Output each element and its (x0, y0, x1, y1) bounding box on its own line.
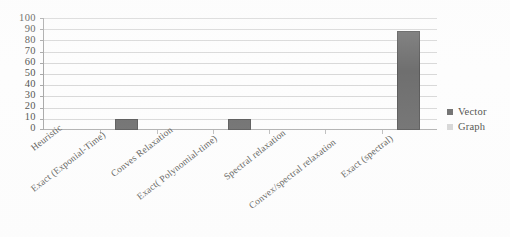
x-tick-label-exact-spectral: Exact (spectral) (339, 133, 395, 180)
gridline-60 (44, 63, 437, 64)
bar-vector-exact-exponential (115, 119, 138, 130)
x-axis-tick (325, 130, 326, 134)
gridline-90 (44, 29, 437, 30)
y-tick-label: 70 (0, 46, 36, 56)
x-axis-tick (269, 130, 270, 134)
gridline-20 (44, 108, 437, 109)
y-tick-label: 10 (0, 112, 36, 122)
legend-swatch-graph (447, 124, 453, 130)
y-tick-label: 50 (0, 68, 36, 78)
y-tick-label: 100 (0, 13, 36, 23)
gridline-70 (44, 52, 437, 53)
y-axis-tick (40, 18, 44, 19)
y-tick-label: 90 (0, 24, 36, 34)
y-axis-tick (40, 40, 44, 41)
x-axis-tick (382, 130, 383, 134)
bar-chart: 100 90 80 70 60 50 40 30 20 10 0 (0, 0, 510, 237)
y-axis-tick (40, 96, 44, 97)
y-axis-tick (40, 52, 44, 53)
legend-item-graph: Graph (447, 119, 509, 134)
bar-vector-exact-spectral (397, 31, 420, 130)
gridline-30 (44, 96, 437, 97)
y-tick-label: 80 (0, 35, 36, 45)
y-axis-tick (40, 85, 44, 86)
y-axis-tick (40, 63, 44, 64)
bar-vector-exact-polynomial (228, 119, 251, 130)
y-tick-label: 40 (0, 79, 36, 89)
y-axis-tick (40, 129, 44, 130)
legend-label-graph: Graph (458, 121, 485, 132)
y-tick-label: 0 (0, 123, 36, 133)
gridline-40 (44, 85, 437, 86)
y-tick-label: 30 (0, 90, 36, 100)
y-tick-label: 60 (0, 57, 36, 67)
x-tick-label-spectral-relaxation: Spectral relaxation (222, 128, 287, 182)
chart-legend: Vector Graph (447, 104, 509, 134)
gridline-100 (44, 18, 437, 19)
gridline-80 (44, 40, 437, 41)
y-axis-tick (40, 29, 44, 30)
legend-swatch-vector (447, 109, 453, 115)
y-axis-tick (40, 108, 44, 109)
y-axis-tick (40, 74, 44, 75)
legend-item-vector: Vector (447, 104, 509, 119)
gridline-50 (44, 74, 437, 75)
plot-area (43, 18, 437, 130)
y-tick-label: 20 (0, 101, 36, 111)
legend-label-vector: Vector (458, 106, 487, 117)
y-axis-tick (40, 119, 44, 120)
